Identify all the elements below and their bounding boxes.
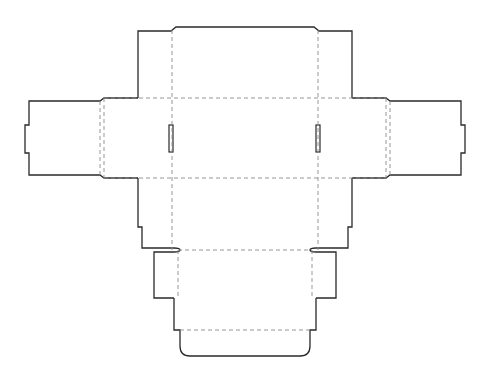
lower-left-cut-line — [138, 178, 180, 298]
dieline-canvas: Flat unfolded packaging box template wit… — [0, 0, 490, 377]
bottom-cut-line — [174, 298, 316, 356]
top-flap-cut-line — [138, 27, 352, 98]
lower-right-cut-line — [310, 178, 352, 298]
left-flap-cut-line — [25, 98, 138, 178]
box-dieline-diagram — [0, 0, 490, 377]
right-flap-cut-line — [352, 98, 465, 178]
